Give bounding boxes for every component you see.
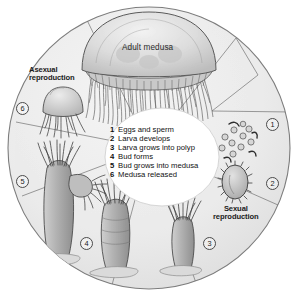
legend-item-number: 5 [110,161,118,170]
stage-marker-1: 1 [266,118,279,131]
legend-item: 4 Bud forms [110,152,214,161]
legend-item: 3 Larva grows into polyp [110,143,214,152]
legend-item-label: Bud grows into medusa [118,161,198,170]
legend-item-label: Eggs and sperm [118,125,174,134]
legend-item-label: Bud forms [118,152,153,161]
parent-polyp-substrate [32,254,80,265]
legend-item-number: 6 [110,170,118,179]
legend-item-number: 1 [110,125,118,134]
stage-marker-5: 5 [16,175,29,188]
legend-item: 2 Larva develops [110,134,214,143]
stage-marker-6: 6 [16,102,29,115]
legend-item: 6 Medusa released [110,170,214,179]
legend-item-number: 3 [110,143,118,152]
adult-medusa-label: Adult medusa [122,44,173,53]
medusa-bud [69,174,93,197]
legend-item-label: Larva develops [118,134,170,143]
legend-item: 5 Bud grows into medusa [110,161,214,170]
stage-marker-3: 3 [203,237,216,250]
jellyfish-life-cycle-diagram: Adult medusa Asexual reproduction Sexual… [0,0,298,295]
legend-item-label: Medusa released [118,170,177,179]
asexual-reproduction-label: Asexual reproduction [29,66,75,82]
young-polyp-stalk [172,217,194,272]
budding-polyp-stalk [101,199,130,274]
legend-item: 1 Eggs and sperm [110,125,214,134]
larva-body [222,165,248,199]
stage-marker-2: 2 [266,177,279,190]
legend-item-number: 2 [110,134,118,143]
legend-list: 1 Eggs and sperm 2 Larva develops 3 Larv… [110,125,214,180]
legend-item-label: Larva grows into polyp [118,143,195,152]
legend-item-number: 4 [110,152,118,161]
stage-marker-4: 4 [80,237,93,250]
sexual-reproduction-label: Sexual reproduction [213,205,259,221]
